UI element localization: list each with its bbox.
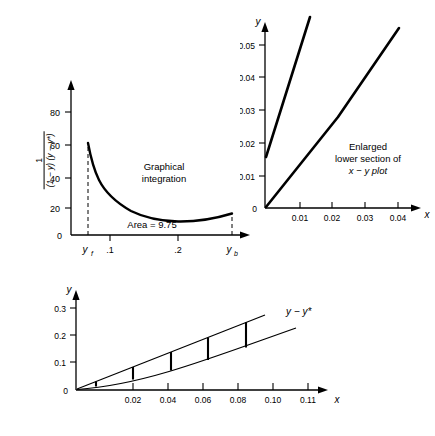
plot1-xtick-label-yf-subscript: f <box>91 250 94 257</box>
plot2-xtick-label-003: 0.03 <box>357 213 374 223</box>
plot1-xtick-label-yf: y <box>82 244 89 255</box>
plot3-x-axis <box>76 386 328 393</box>
plot2-ytick-label-001: 0.01 <box>240 172 255 182</box>
plot1-y-axis-label: 1 (1 − y) (y − y*) <box>35 131 56 189</box>
plot3-ytick-label-0: 0 <box>63 386 68 396</box>
plot2-xtick-label-004: 0.04 <box>390 213 407 223</box>
plot2-y-axis-label: y <box>255 16 262 27</box>
plot1-ytick-label-20: 20 <box>50 204 60 214</box>
plot2-operating-line <box>266 28 399 207</box>
plot2-xtick-label-001: 0.01 <box>292 213 309 223</box>
plot1-y-axis-label-numerator: 1 <box>35 131 44 189</box>
plot3-annotation-driving-force: y − y* <box>285 306 312 317</box>
plot1-xtick-label-yb: y <box>226 244 233 255</box>
plot1-xtick-label-point2: .2 <box>174 245 182 255</box>
plot3-y-axis-label: y <box>66 284 73 295</box>
plot2-ytick-label-0: 0 <box>252 204 257 214</box>
plot3-equilibrium-curve <box>77 328 296 390</box>
plot1-xtick-label-point1: .1 <box>106 245 114 255</box>
plot1-y-axis-label-denominator: (1 − y) (y − y*) <box>44 131 55 189</box>
plot2-ytick-label-002: 0.02 <box>240 139 255 149</box>
plot3-y-ticks <box>70 308 76 362</box>
plot2-annotation-line1: Enlarged <box>349 141 387 152</box>
plot2-ytick-label-005: 0.05 <box>240 41 255 51</box>
plot1-x-axis <box>71 231 250 238</box>
plot1-ytick-label-80: 80 <box>50 108 60 118</box>
plot3-x-ticks <box>133 383 308 390</box>
plot1-ytick-label-0: 0 <box>57 231 62 241</box>
plot2-xtick-label-002: 0.02 <box>324 213 341 223</box>
plot1-annotation-line1: Graphical <box>144 161 185 172</box>
plot2-equilibrium-curve <box>266 17 310 157</box>
plot3-ytick-label-02: 0.2 <box>54 331 66 341</box>
plot1-annotation-line2: integration <box>142 173 186 184</box>
plot1-xtick-label-yb-subscript: b <box>234 250 238 257</box>
plot2-annotation-line3: x − y plot <box>348 165 388 176</box>
plot2-annotation-line2: lower section of <box>335 153 401 164</box>
plot3-xtick-label-011: 0.11 <box>300 395 316 405</box>
plot3-xtick-label-004: 0.04 <box>160 395 177 405</box>
figure-canvas: 80 60 40 20 0 y f .1 .2 y b Graphical in… <box>0 0 435 436</box>
plot1-y-axis <box>67 80 74 235</box>
plot2-y-axis <box>261 22 268 208</box>
plot2-x-ticks <box>300 202 398 208</box>
plot3-xtick-label-002: 0.02 <box>125 395 142 405</box>
plot3-ytick-label-03: 0.3 <box>54 304 66 314</box>
plot1-annotation-area: Area = 9.75 <box>127 219 176 230</box>
plot3-x-axis-label: x <box>334 394 341 405</box>
plot3-xtick-label-006: 0.06 <box>195 395 212 405</box>
plot2-y-ticks <box>259 45 265 176</box>
plot3-y-axis <box>72 290 79 390</box>
plot-enlarged-lower-section: y x 0.05 0.04 0.03 0.02 0.01 0 0.01 0.02… <box>240 0 435 235</box>
plot2-ytick-label-004: 0.04 <box>240 73 255 83</box>
plot2-ytick-label-003: 0.03 <box>240 106 255 116</box>
plot3-xtick-label-008: 0.08 <box>230 395 247 405</box>
plot3-ytick-label-01: 0.1 <box>54 358 66 368</box>
plot3-xtick-label-010: 0.10 <box>265 395 282 405</box>
plot1-y-ticks <box>65 112 71 208</box>
plot1-x-ticks <box>110 235 178 241</box>
plot2-x-axis-label: x <box>424 209 431 220</box>
plot-xy-driving-force: y x 0.3 0.2 0.1 0 0.02 0.04 0.06 0.08 0.… <box>45 276 375 436</box>
